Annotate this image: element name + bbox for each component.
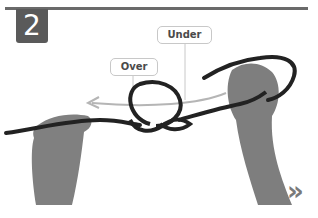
under-callout: Under: [157, 26, 212, 44]
over-callout: Over: [110, 58, 158, 76]
right-hand: [228, 63, 292, 205]
step-number-badge: 2: [16, 9, 48, 43]
next-chevron-icon[interactable]: »: [287, 178, 311, 204]
direction-arrow: [92, 93, 226, 105]
